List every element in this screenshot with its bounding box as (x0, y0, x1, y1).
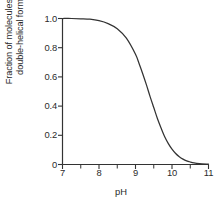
plot-area (0, 0, 222, 207)
data-curve (63, 18, 209, 164)
chart-figure: Fraction of molecules in double-helical … (0, 0, 222, 207)
axis-ticks (58, 19, 209, 170)
axis-spines (63, 19, 209, 165)
